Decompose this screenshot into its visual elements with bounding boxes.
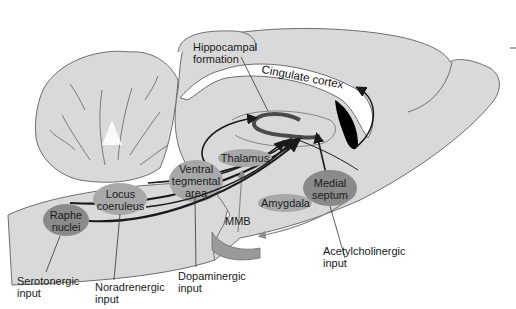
- brain-diagram: Hippocampal formation Cingulate cortex T…: [0, 0, 516, 309]
- locus-coeruleus-label: Locus coeruleus: [93, 188, 148, 212]
- acetylcholinergic-input-label: Acetylcholinergic input: [323, 245, 406, 269]
- ventral-tegmental-area-label: Ventral tegmental area: [170, 163, 222, 199]
- mmb-label: MMB: [225, 215, 251, 227]
- noradrenergic-input-label: Noradrenergic input: [95, 281, 165, 305]
- hippocampal-formation-label: Hippocampal formation: [193, 41, 257, 65]
- amygdala-label: Amygdala: [258, 197, 313, 209]
- raphe-nuclei-label: Raphe nuclei: [45, 209, 87, 233]
- thalamus-label: Thalamus: [220, 152, 270, 164]
- serotonergic-input-label: Serotonergic input: [17, 275, 79, 299]
- dopaminergic-input-label: Dopaminergic input: [178, 270, 246, 294]
